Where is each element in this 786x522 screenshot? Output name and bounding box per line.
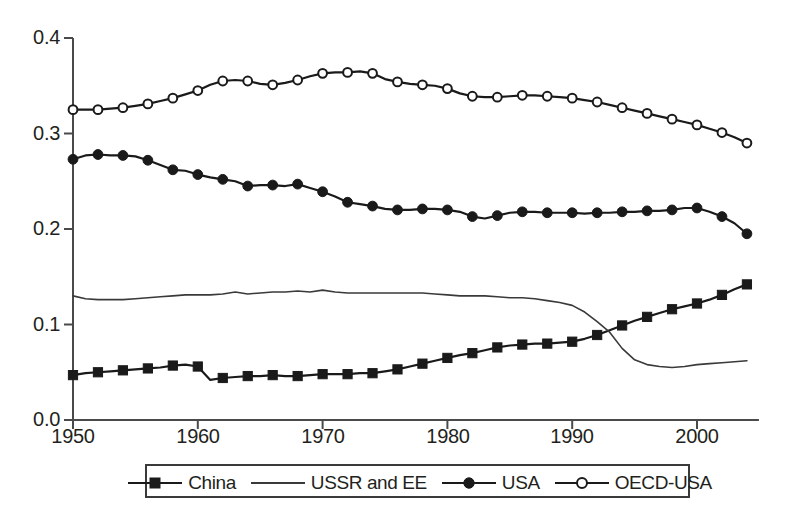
data-point-marker — [667, 305, 676, 314]
data-point-marker — [468, 92, 477, 101]
ytick-label-0.3: 0.3 — [4, 122, 60, 145]
data-point-marker — [493, 93, 502, 102]
data-point-marker — [318, 370, 327, 379]
data-point-marker — [568, 94, 577, 103]
legend-marker-filled-square-icon — [127, 475, 183, 491]
data-point-marker — [193, 170, 203, 180]
data-point-marker — [143, 99, 152, 108]
data-point-marker — [443, 205, 453, 215]
legend-marker-plain-line-icon — [250, 475, 306, 491]
data-point-marker — [692, 299, 701, 308]
data-point-marker — [119, 103, 128, 112]
data-point-marker — [368, 369, 377, 378]
data-point-marker — [68, 371, 77, 380]
data-point-marker — [318, 69, 327, 78]
legend-marker-filled-circle-icon — [441, 475, 497, 491]
data-point-marker — [618, 321, 627, 330]
legend-label-oecd-usa: OECD-USA — [615, 472, 712, 494]
data-point-marker — [717, 212, 727, 222]
data-point-marker — [542, 208, 552, 218]
data-point-marker — [118, 366, 127, 375]
xtick-label-2000: 2000 — [657, 425, 737, 448]
data-point-marker — [218, 77, 227, 86]
data-point-marker — [593, 98, 602, 107]
data-point-marker — [668, 115, 677, 124]
data-point-marker — [268, 371, 277, 380]
data-point-marker — [518, 340, 527, 349]
data-point-marker — [193, 86, 202, 95]
xtick-label-1950: 1950 — [33, 425, 113, 448]
data-point-marker — [718, 128, 727, 137]
data-point-marker — [517, 207, 527, 217]
data-point-marker — [243, 371, 252, 380]
legend-item-oecd-usa: OECD-USA — [554, 472, 712, 494]
series-line — [73, 71, 747, 143]
series-ussr-and-ee — [73, 290, 747, 367]
data-point-marker — [143, 364, 152, 373]
data-point-marker — [742, 280, 751, 289]
data-point-marker — [193, 362, 202, 371]
data-point-marker — [518, 91, 527, 100]
data-point-marker — [368, 69, 377, 78]
data-point-marker — [168, 165, 178, 175]
data-point-marker — [642, 312, 651, 321]
data-point-marker — [118, 151, 128, 161]
ytick-label-0.4: 0.4 — [4, 26, 60, 49]
data-point-marker — [168, 94, 177, 103]
data-point-marker — [218, 174, 228, 184]
xtick-label-1980: 1980 — [408, 425, 488, 448]
data-point-marker — [418, 80, 427, 89]
data-point-marker — [568, 337, 577, 346]
data-point-marker — [443, 84, 452, 93]
data-point-marker — [543, 92, 552, 101]
data-point-marker — [468, 349, 477, 358]
data-point-marker — [93, 368, 102, 377]
series-oecd-usa — [69, 68, 752, 147]
series-line — [73, 290, 747, 367]
data-point-marker — [593, 330, 602, 339]
xtick-label-1970: 1970 — [283, 425, 363, 448]
data-point-marker — [592, 208, 602, 218]
xtick-label-1990: 1990 — [532, 425, 612, 448]
data-point-marker — [293, 371, 302, 380]
data-point-marker — [493, 343, 502, 352]
data-point-marker — [393, 365, 402, 374]
chart-legend: China USSR and EE USA OEC — [145, 464, 690, 498]
data-point-marker — [543, 339, 552, 348]
data-point-marker — [418, 359, 427, 368]
data-point-marker — [343, 68, 352, 77]
data-point-marker — [293, 76, 302, 85]
data-point-marker — [143, 155, 153, 165]
data-point-marker — [343, 370, 352, 379]
data-point-marker — [692, 203, 702, 213]
data-point-marker — [492, 211, 502, 221]
data-point-marker — [68, 154, 78, 164]
series-usa — [68, 150, 752, 239]
chart-container: 0.4 0.3 0.2 0.1 0.0 1950 1960 1970 1980 … — [0, 0, 786, 522]
ytick-label-0.1: 0.1 — [4, 313, 60, 336]
legend-item-ussr-and-ee: USSR and EE — [250, 472, 427, 494]
data-point-marker — [642, 206, 652, 216]
data-point-marker — [368, 201, 378, 211]
data-point-marker — [617, 207, 627, 217]
data-point-marker — [618, 103, 627, 112]
ytick-label-0.2: 0.2 — [4, 217, 60, 240]
data-point-marker — [393, 205, 403, 215]
data-point-marker — [567, 208, 577, 218]
data-point-marker — [393, 78, 402, 87]
legend-marker-open-circle-icon — [554, 475, 610, 491]
data-point-marker — [643, 109, 652, 118]
data-point-marker — [467, 212, 477, 222]
data-point-marker — [69, 105, 78, 114]
legend-label-usa: USA — [502, 472, 540, 494]
data-point-marker — [168, 361, 177, 370]
data-point-marker — [268, 180, 278, 190]
data-point-marker — [742, 229, 752, 239]
data-point-marker — [218, 373, 227, 382]
legend-label-ussr-and-ee: USSR and EE — [311, 472, 427, 494]
data-point-marker — [94, 105, 103, 114]
data-point-marker — [693, 121, 702, 130]
data-point-marker — [243, 77, 252, 86]
data-point-marker — [717, 290, 726, 299]
data-point-marker — [318, 187, 328, 197]
